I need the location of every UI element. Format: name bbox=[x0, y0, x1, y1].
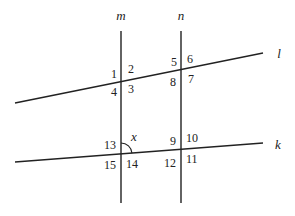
line-l-label: l bbox=[277, 46, 281, 61]
angle-label-5: 5 bbox=[171, 55, 177, 69]
angle-label-13: 13 bbox=[104, 138, 116, 152]
line-k-label: k bbox=[275, 137, 281, 152]
line-m-label: m bbox=[116, 8, 125, 23]
angle-label-11: 11 bbox=[186, 152, 198, 166]
angle-label-6: 6 bbox=[187, 52, 193, 66]
line-l bbox=[15, 53, 263, 103]
angle-label-14: 14 bbox=[126, 157, 138, 171]
angle-label-15: 15 bbox=[104, 158, 116, 172]
angle-x-arc bbox=[121, 143, 132, 153]
angle-label-12: 12 bbox=[164, 156, 176, 170]
angle-label-8: 8 bbox=[170, 75, 176, 89]
line-n-label: n bbox=[178, 8, 185, 23]
angle-label-2: 2 bbox=[128, 62, 134, 76]
angle-label-9: 9 bbox=[170, 134, 176, 148]
angle-x-label: x bbox=[130, 129, 137, 144]
angle-label-1: 1 bbox=[111, 67, 117, 81]
angle-label-7: 7 bbox=[188, 72, 194, 86]
transversal-diagram: m n l k x 1 2 3 4 5 6 7 8 9 10 11 12 13 … bbox=[0, 0, 295, 216]
angle-label-4: 4 bbox=[111, 85, 117, 99]
angle-label-3: 3 bbox=[128, 82, 134, 96]
line-k bbox=[15, 143, 263, 162]
angle-label-10: 10 bbox=[186, 131, 198, 145]
